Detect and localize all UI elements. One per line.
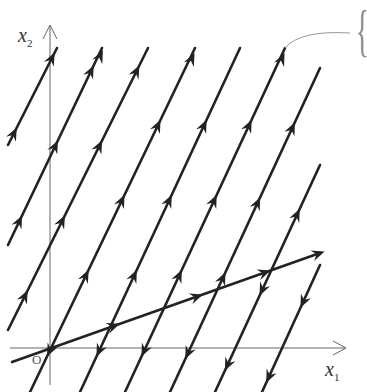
- trajectories: [6, 48, 325, 392]
- x-axis-label: x1: [325, 358, 339, 383]
- x-axis-label-main: x: [325, 358, 334, 380]
- annotation-leader-line: [285, 33, 350, 48]
- fast-trajectory-line: [30, 48, 195, 392]
- phase-portrait-diagram: [0, 0, 367, 392]
- x-axis-label-sub: 1: [334, 371, 340, 383]
- origin-label: O: [32, 352, 41, 368]
- y-axis-label: x2: [18, 24, 32, 49]
- annotation-brace: {: [356, 2, 367, 60]
- fast-trajectory-line: [262, 265, 320, 392]
- y-axis-label-sub: 2: [27, 37, 33, 49]
- fast-trajectory-line: [170, 68, 320, 392]
- slow-trajectory-line: [12, 253, 320, 362]
- fast-trajectory-line: [125, 48, 285, 392]
- fast-trajectory-line: [80, 48, 240, 392]
- fast-trajectory-line: [215, 165, 320, 392]
- direction-arrow-icon: [274, 53, 284, 67]
- y-axis-label-main: x: [18, 24, 27, 46]
